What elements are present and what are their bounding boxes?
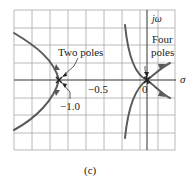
- two-poles-label: Two poles: [58, 47, 103, 58]
- real-axis-label: σ: [180, 74, 185, 85]
- tick-label-minus-half: −0.5: [88, 84, 108, 95]
- locus-branches-left: [14, 33, 59, 130]
- four-poles-label-line2: poles: [151, 47, 174, 58]
- tick-label-minus-one: −1.0: [60, 101, 80, 112]
- four-poles-label-line1: Four: [152, 34, 173, 45]
- figure-caption: (c): [84, 165, 96, 176]
- origin-label: 0: [142, 84, 148, 95]
- imag-axis-label: jω: [152, 14, 162, 24]
